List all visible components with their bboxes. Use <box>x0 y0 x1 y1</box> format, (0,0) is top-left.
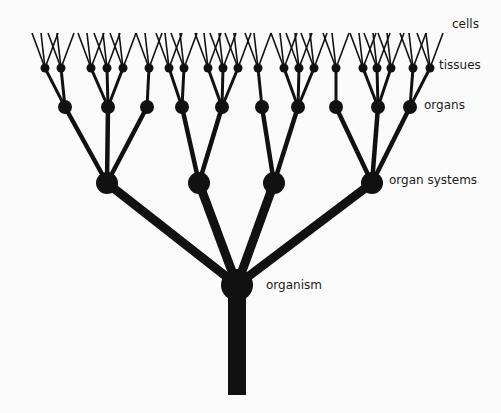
cell-branch <box>61 33 74 68</box>
cell-branches <box>32 33 443 68</box>
organ-branches <box>65 107 410 183</box>
trunk-stem <box>228 285 246 395</box>
label-organism: organism <box>266 279 322 291</box>
organ-node <box>255 100 269 114</box>
cell-branch <box>258 33 271 68</box>
organism-trunk <box>228 285 246 395</box>
label-organs: organs <box>424 99 465 111</box>
tissue-node <box>165 64 174 73</box>
tissue-branches <box>45 68 430 107</box>
tissue-node <box>219 64 228 73</box>
tissue-node <box>87 64 96 73</box>
tissue-node <box>145 64 154 73</box>
cell-branch <box>336 33 349 68</box>
organ-node <box>101 100 115 114</box>
organ-node <box>215 100 229 114</box>
organ-branch <box>199 107 222 183</box>
tissue-node <box>41 64 50 73</box>
tissue-node <box>234 64 243 73</box>
organism-node <box>221 269 253 301</box>
cell-branch <box>91 33 104 68</box>
tissue-node <box>359 64 368 73</box>
tissue-node <box>103 64 112 73</box>
organ-node <box>58 100 72 114</box>
organ-node <box>329 100 343 114</box>
tissue-node <box>280 64 289 73</box>
tissue-node <box>332 64 341 73</box>
tissue-node <box>426 64 435 73</box>
tissue-node <box>373 64 382 73</box>
organ-node <box>403 100 417 114</box>
cell-branch <box>149 33 162 68</box>
tissue-node <box>204 64 213 73</box>
cell-branch <box>123 33 136 68</box>
organ-branch <box>336 107 372 183</box>
organ-branch <box>107 107 108 183</box>
label-organ-systems: organ systems <box>389 174 477 186</box>
organ-system-node <box>263 172 285 194</box>
body-hierarchy-tree <box>0 0 501 413</box>
tissue-node <box>119 64 128 73</box>
organ-node <box>291 100 305 114</box>
label-cells: cells <box>452 18 479 30</box>
tissue-node <box>310 64 319 73</box>
organ-system-node <box>361 172 383 194</box>
organ-branch <box>182 107 199 183</box>
organ-branch <box>262 107 274 183</box>
tissue-node <box>57 64 66 73</box>
organ-branch <box>274 107 298 183</box>
cell-branch <box>45 33 58 68</box>
organ-node <box>175 100 189 114</box>
cell-branch <box>184 33 197 68</box>
organ-branch <box>65 107 107 183</box>
organ-node <box>140 100 154 114</box>
cell-branch <box>238 33 251 68</box>
tissue-node <box>295 64 304 73</box>
label-tissues: tissues <box>439 59 481 71</box>
tissue-node <box>387 64 396 73</box>
organ-system-node <box>96 172 118 194</box>
tissue-node <box>254 64 263 73</box>
organ-node <box>371 100 385 114</box>
tissue-node <box>180 64 189 73</box>
cell-branch <box>107 33 120 68</box>
organ-system-node <box>188 172 210 194</box>
tissue-node <box>409 64 418 73</box>
organ-branch <box>107 107 147 183</box>
